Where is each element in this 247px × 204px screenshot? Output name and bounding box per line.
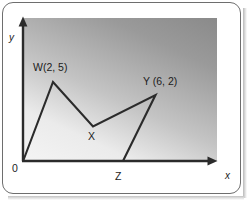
y-axis-label: y bbox=[9, 33, 14, 43]
point-label-w: W(2, 5) bbox=[33, 62, 67, 73]
y-axis-arrow-icon bbox=[19, 17, 28, 27]
point-label-x: X bbox=[88, 131, 95, 142]
point-label-y: Y (6, 2) bbox=[143, 76, 177, 87]
origin-label: 0 bbox=[12, 163, 18, 174]
x-axis-label: x bbox=[225, 171, 230, 181]
point-label-z: Z bbox=[115, 171, 121, 182]
figure-root: y x 0 W(2, 5) X Y (6, 2) Z bbox=[0, 0, 247, 204]
graph-polyline bbox=[24, 82, 156, 161]
graph-canvas bbox=[0, 0, 247, 204]
x-axis-arrow-icon bbox=[208, 156, 218, 165]
